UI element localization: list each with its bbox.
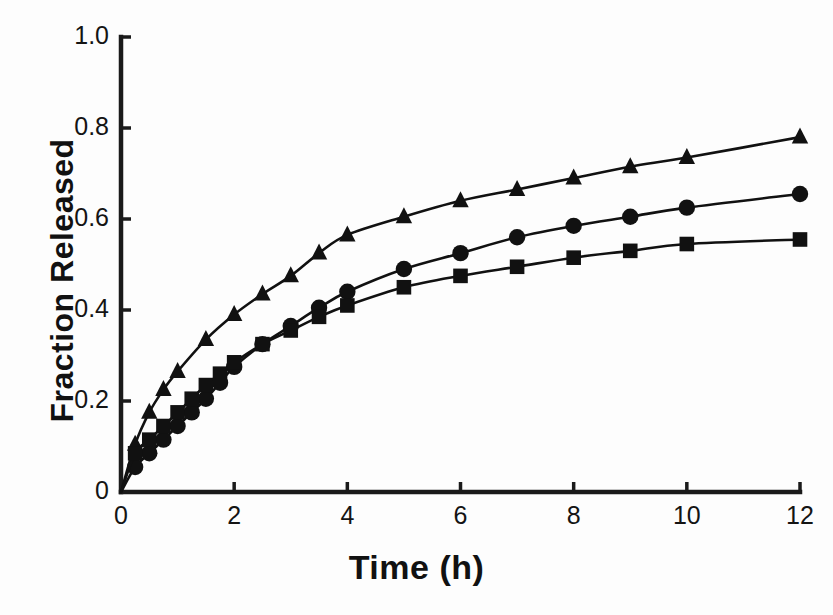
- data-point-marker: [340, 298, 355, 313]
- data-point-marker: [227, 355, 242, 370]
- data-point-marker: [453, 269, 468, 284]
- data-point-marker: [622, 209, 638, 225]
- data-point-marker: [226, 305, 242, 321]
- x-tick-label: 12: [770, 501, 830, 530]
- y-tick-label: 1.0: [29, 21, 109, 50]
- data-point-marker: [128, 446, 143, 461]
- y-axis-title: Fraction Released: [44, 71, 81, 491]
- x-tick-label: 0: [91, 501, 151, 530]
- series-line: [121, 194, 800, 492]
- data-point-marker: [396, 261, 412, 277]
- data-point-marker: [170, 405, 185, 420]
- data-point-marker: [155, 431, 171, 447]
- data-point-marker: [141, 403, 157, 419]
- data-point-marker: [255, 337, 270, 352]
- data-point-marker: [156, 419, 171, 434]
- data-point-marker: [184, 391, 199, 406]
- data-series: [121, 232, 807, 492]
- data-point-marker: [679, 199, 695, 215]
- data-point-marker: [397, 280, 412, 295]
- data-series: [121, 186, 808, 492]
- chart-figure: 00.20.40.60.81.0 024681012 Fraction Rele…: [0, 0, 833, 615]
- data-point-marker: [792, 128, 808, 144]
- data-point-marker: [141, 445, 157, 461]
- data-point-marker: [311, 244, 327, 260]
- data-point-marker: [213, 366, 228, 381]
- data-point-marker: [509, 229, 525, 245]
- x-axis-title: Time (h): [0, 548, 833, 587]
- series-line: [121, 137, 800, 492]
- data-point-marker: [623, 244, 638, 259]
- data-series: [121, 128, 808, 492]
- data-point-marker: [199, 378, 214, 393]
- data-point-marker: [339, 284, 355, 300]
- data-point-marker: [565, 218, 581, 234]
- x-tick-label: 4: [317, 501, 377, 530]
- data-point-marker: [198, 391, 214, 407]
- x-tick-label: 8: [544, 501, 604, 530]
- data-point-marker: [792, 186, 808, 202]
- data-point-marker: [283, 266, 299, 282]
- data-point-marker: [793, 232, 808, 247]
- data-point-marker: [254, 285, 270, 301]
- data-point-marker: [142, 432, 157, 447]
- data-series-layer: [121, 128, 808, 492]
- data-point-marker: [184, 404, 200, 420]
- axis-lines: [121, 37, 800, 492]
- x-tick-label: 6: [431, 501, 491, 530]
- data-point-marker: [169, 418, 185, 434]
- data-point-marker: [452, 245, 468, 261]
- data-point-marker: [680, 237, 695, 252]
- data-point-marker: [566, 250, 581, 265]
- x-tick-label: 2: [204, 501, 264, 530]
- x-tick-label: 10: [657, 501, 717, 530]
- data-point-marker: [283, 323, 298, 338]
- tick-marks: [121, 37, 800, 492]
- data-point-marker: [312, 310, 327, 325]
- data-point-marker: [510, 259, 525, 274]
